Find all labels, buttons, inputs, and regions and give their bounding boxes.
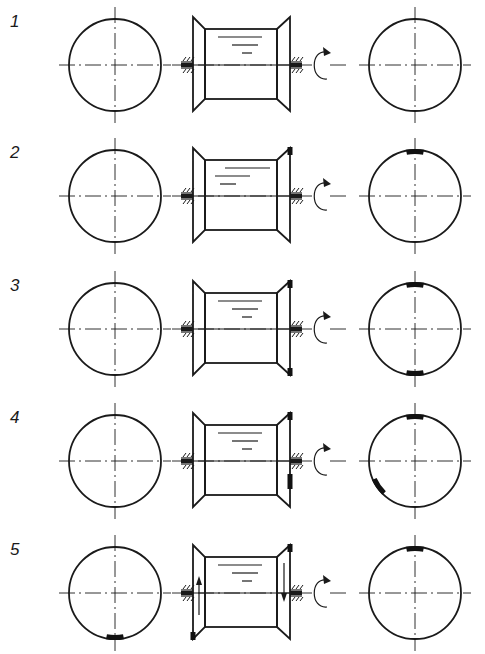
drum-body	[205, 29, 277, 99]
left-plane	[59, 403, 171, 519]
bearing-hatch	[183, 453, 186, 457]
bearing-core	[181, 63, 193, 67]
left-plane	[59, 271, 171, 387]
balance-weight-icon	[107, 637, 124, 638]
left-plane	[59, 535, 171, 651]
bearing-hatch	[292, 465, 295, 469]
bearing-hatch	[300, 453, 303, 457]
bearing-hatch-icon	[290, 321, 303, 337]
bearing-core	[290, 194, 302, 198]
rotation-arrow-head	[323, 311, 331, 320]
bearing-hatch	[187, 57, 190, 61]
drum-body	[205, 557, 277, 627]
bearing-hatch	[300, 188, 303, 192]
left-plane	[59, 138, 171, 254]
balance-weight-icon	[407, 373, 424, 374]
bearing-hatch	[183, 188, 186, 192]
bearing-hatch	[296, 453, 299, 457]
rotation-arrow-head	[323, 178, 331, 187]
balance-weight-icon	[374, 479, 384, 493]
bearing-hatch	[183, 57, 186, 61]
rotation-arrow-curve	[314, 580, 327, 607]
bearing-hatch	[300, 333, 303, 337]
right-plane	[359, 138, 471, 254]
arrow-up-icon	[196, 576, 202, 585]
rows-layer: 12345	[9, 7, 471, 651]
step-row-1: 1	[10, 7, 471, 123]
bearing-hatch-icon	[181, 585, 194, 601]
right-flange	[277, 413, 290, 507]
rotation-arrow-icon	[314, 311, 331, 343]
right-flange	[277, 148, 290, 242]
bearing-core	[290, 63, 302, 67]
bearing-hatch-icon	[290, 585, 303, 601]
rotation-arrow-icon	[314, 443, 331, 475]
bearing-hatch	[187, 333, 190, 337]
bearing-hatch-icon	[290, 188, 303, 204]
rotor-drum	[172, 412, 350, 507]
bearing-hatch	[296, 585, 299, 589]
bearing-hatch	[296, 465, 299, 469]
bearing-hatch	[300, 69, 303, 73]
step-row-3: 3	[10, 271, 471, 387]
bearing-hatch	[187, 69, 190, 73]
bearing-hatch-icon	[181, 188, 194, 204]
rotation-arrow-head	[323, 47, 331, 56]
bearing-hatch	[292, 200, 295, 204]
bearing-hatch-icon	[290, 57, 303, 73]
bearing-core	[181, 327, 193, 331]
bearing-core	[290, 591, 302, 595]
bearing-core	[181, 194, 193, 198]
drum-body	[205, 160, 277, 230]
bearing-hatch	[296, 57, 299, 61]
bearing-hatch	[292, 585, 295, 589]
bearing-hatch	[296, 69, 299, 73]
bearing-hatch	[296, 597, 299, 601]
right-plane	[359, 271, 471, 387]
balance-weight-icon	[407, 416, 424, 417]
bearing-hatch	[183, 333, 186, 337]
bearing-hatch	[300, 321, 303, 325]
bearing-hatch	[292, 188, 295, 192]
right-flange	[277, 17, 290, 111]
right-plane	[359, 7, 471, 123]
bearing-hatch	[187, 200, 190, 204]
arrow-down-icon	[281, 593, 287, 602]
step-row-4: 4	[10, 403, 471, 519]
step-number: 5	[10, 540, 20, 559]
bearing-core	[181, 459, 193, 463]
bearing-hatch	[187, 597, 190, 601]
bearing-hatch	[296, 321, 299, 325]
balance-weight-icon	[407, 151, 424, 152]
rotation-arrow-head	[323, 575, 331, 584]
balancing-diagram: 12345	[0, 0, 485, 654]
bearing-hatch	[183, 465, 186, 469]
bearing-hatch	[187, 188, 190, 192]
right-plane	[359, 403, 471, 519]
bearing-hatch	[292, 453, 295, 457]
balance-weight-icon	[407, 548, 424, 549]
bearing-hatch	[300, 465, 303, 469]
bearing-hatch	[187, 585, 190, 589]
left-flange	[193, 17, 205, 111]
bearing-hatch-icon	[290, 453, 303, 469]
bearing-hatch	[296, 333, 299, 337]
rotor-drum	[172, 280, 350, 376]
bearing-hatch	[300, 57, 303, 61]
bearing-hatch	[300, 585, 303, 589]
bearing-hatch	[292, 57, 295, 61]
step-row-5: 5	[10, 535, 471, 651]
bearing-hatch	[300, 597, 303, 601]
bearing-hatch	[292, 69, 295, 73]
bearing-hatch	[187, 321, 190, 325]
bearing-hatch	[183, 200, 186, 204]
rotation-arrow-icon	[314, 575, 331, 607]
bearing-core	[181, 591, 193, 595]
bearing-hatch	[183, 321, 186, 325]
bearing-hatch	[300, 200, 303, 204]
bearing-hatch-icon	[181, 321, 194, 337]
bearing-hatch	[187, 453, 190, 457]
rotation-arrow-icon	[314, 178, 331, 210]
right-plane	[359, 535, 471, 651]
step-row-2: 2	[9, 138, 471, 254]
